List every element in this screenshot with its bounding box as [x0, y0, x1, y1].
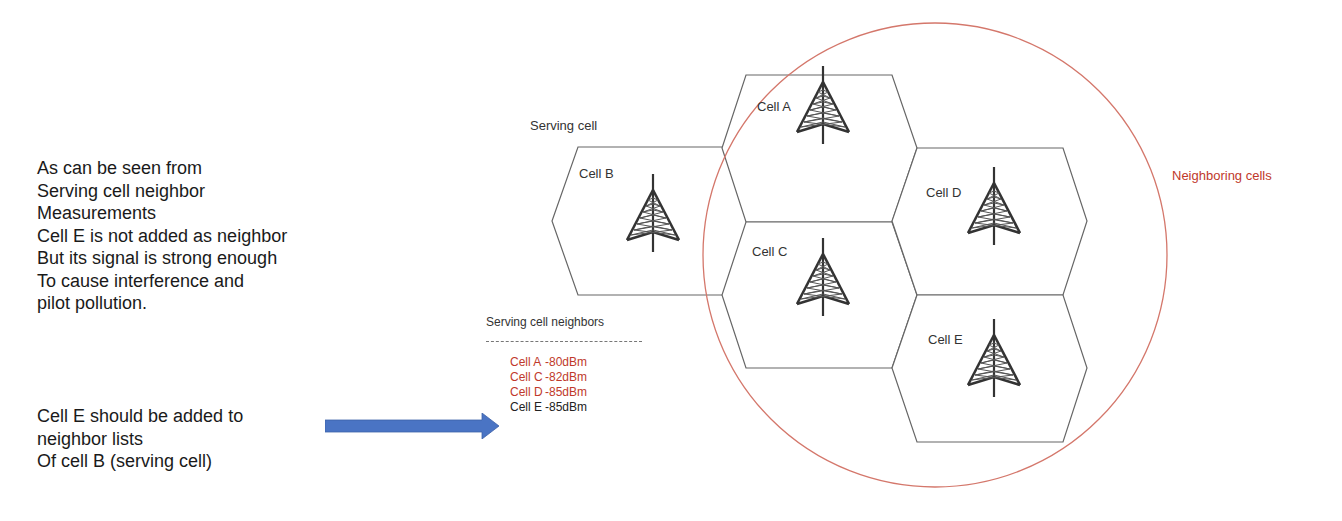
neighbor-list-divider [486, 341, 642, 342]
cell-label-c: Cell C [752, 244, 787, 259]
neighbor-list-row: Cell D -85dBm [510, 385, 587, 400]
neighbor-cell-name: Cell E [510, 400, 545, 415]
neighbor-cell-level: -85dBm [545, 385, 587, 400]
neighbor-cell-level: -82dBm [545, 370, 587, 385]
cell-label-d: Cell D [926, 185, 961, 200]
neighboring-cells-label: Neighboring cells [1172, 168, 1272, 183]
neighbor-cell-name: Cell D [510, 385, 545, 400]
neighbor-cell-level: -85dBm [545, 400, 587, 415]
cell-layout-diagram [0, 0, 1342, 521]
neighbor-cell-name: Cell A [510, 355, 545, 370]
cell-label-e: Cell E [928, 332, 963, 347]
cell-label-a: Cell A [757, 99, 791, 114]
hex-cell-d [892, 148, 1087, 295]
hex-cell-e [892, 295, 1087, 442]
neighbor-list-row: Cell A -80dBm [510, 355, 587, 370]
neighbor-cell-name: Cell C [510, 370, 545, 385]
neighbor-list-title: Serving cell neighbors [486, 315, 604, 329]
serving-cell-label: Serving cell [530, 118, 597, 133]
neighbor-list: Cell A -80dBm Cell C -82dBm Cell D -85dB… [510, 355, 587, 415]
neighbor-list-row-missing: Cell E -85dBm [510, 400, 587, 415]
neighbor-list-row: Cell C -82dBm [510, 370, 587, 385]
neighbor-cell-level: -80dBm [545, 355, 587, 370]
cell-label-b: Cell B [579, 166, 614, 181]
